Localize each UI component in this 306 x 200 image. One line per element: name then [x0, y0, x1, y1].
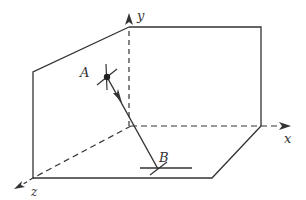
- z-axis-arrow-icon: [14, 181, 25, 189]
- coordinate-diagram: y x z A B: [0, 0, 306, 200]
- x-axis-label: x: [284, 131, 292, 146]
- point-a-label: A: [79, 65, 89, 80]
- x-axis-arrow-icon: [279, 122, 291, 130]
- point-a-marker: [97, 64, 117, 90]
- floor-plane: [33, 126, 261, 178]
- back-plane: [129, 27, 261, 126]
- z-axis-label: z: [30, 185, 38, 199]
- left-plane: [33, 27, 129, 178]
- z-axis: [14, 126, 131, 189]
- x-axis: [131, 122, 291, 130]
- y-axis-label: y: [136, 8, 145, 23]
- point-b-label: B: [158, 150, 169, 165]
- trajectory-line: [107, 77, 158, 169]
- y-axis-arrow-icon: [125, 13, 133, 25]
- y-axis: [125, 13, 133, 126]
